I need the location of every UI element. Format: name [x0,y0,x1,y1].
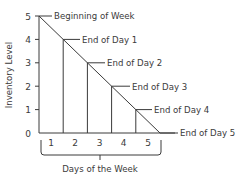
y-axis-label: Inventory Level [4,42,14,108]
annotation-end-day-2: End of Day 2 [107,58,162,68]
annotation-beginning-of-week: Beginning of Week [54,11,135,21]
x-axis-label: Days of the Week [62,164,138,174]
x-tick-4: 4 [121,138,127,148]
annotation-end-day-4: End of Day 4 [154,105,209,115]
annotation-end-day-1: End of Day 1 [82,35,137,45]
y-tick-2: 2 [25,82,31,92]
y-tick-3: 3 [25,58,31,68]
x-tick-2: 2 [72,138,78,148]
y-tick-0: 0 [25,129,31,139]
x-tick-3: 3 [97,138,103,148]
annotation-end-day-5: End of Day 5 [180,128,235,138]
y-tick-1: 1 [25,105,31,115]
y-tick-5: 5 [25,12,31,22]
x-tick-1: 1 [48,138,54,148]
inventory-diagram: 5 4 3 2 1 0 1 2 3 4 5 Beginning of Week … [0,0,241,181]
annotation-end-day-3: End of Day 3 [132,82,187,92]
y-tick-4: 4 [25,35,31,45]
x-tick-5: 5 [145,138,151,148]
